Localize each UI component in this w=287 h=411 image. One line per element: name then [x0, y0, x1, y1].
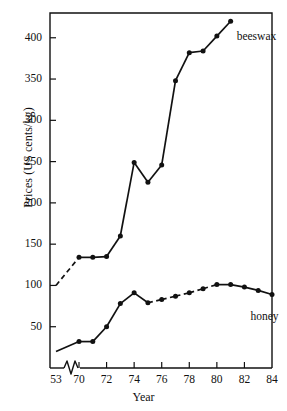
data-point-honey — [77, 339, 82, 344]
data-point-honey — [173, 294, 178, 299]
y-tick-label-100: 100 — [2, 279, 42, 291]
series-segment-honey — [134, 293, 148, 303]
y-tick-label-250: 250 — [2, 156, 42, 168]
data-point-beeswax — [173, 78, 178, 83]
series-segment-honey — [120, 293, 134, 304]
data-point-honey — [201, 286, 206, 291]
data-point-honey — [90, 339, 95, 344]
data-point-honey — [214, 282, 219, 287]
data-point-beeswax — [228, 19, 233, 24]
series-segment-beeswax — [176, 53, 190, 81]
data-point-honey — [228, 282, 233, 287]
data-point-beeswax — [159, 162, 164, 167]
data-point-honey — [270, 292, 275, 297]
series-segment-beeswax — [107, 236, 121, 257]
x-tick-label-76: 76 — [149, 374, 175, 386]
data-point-beeswax — [187, 50, 192, 55]
x-tick-label-70: 70 — [66, 374, 92, 386]
data-point-honey — [256, 288, 261, 293]
y-tick-label-200: 200 — [2, 197, 42, 209]
series-segment-beeswax — [148, 165, 162, 182]
y-tick-label-300: 300 — [2, 114, 42, 126]
data-point-honey — [118, 301, 123, 306]
x-tick-label-84: 84 — [259, 374, 285, 386]
data-point-beeswax — [132, 160, 137, 165]
series-segment-honey — [56, 342, 79, 352]
data-point-honey — [132, 290, 137, 295]
x-tick-label-72: 72 — [94, 374, 120, 386]
x-tick-label-82: 82 — [231, 374, 257, 386]
plot-area — [0, 0, 287, 411]
data-point-beeswax — [201, 48, 206, 53]
data-point-beeswax — [145, 180, 150, 185]
y-tick-label-150: 150 — [2, 238, 42, 250]
series-segment-honey — [107, 304, 121, 327]
data-point-honey — [145, 300, 150, 305]
series-label-honey: honey — [250, 310, 278, 322]
series-segment-honey — [93, 327, 107, 342]
series-segment-beeswax — [217, 21, 231, 36]
data-point-beeswax — [118, 233, 123, 238]
series-segment-beeswax — [56, 257, 79, 285]
y-tick-label-350: 350 — [2, 73, 42, 85]
data-point-honey — [187, 290, 192, 295]
series-segment-beeswax — [203, 36, 217, 51]
data-point-beeswax — [90, 255, 95, 260]
y-tick-label-400: 400 — [2, 32, 42, 44]
data-point-honey — [159, 297, 164, 302]
data-point-honey — [104, 324, 109, 329]
x-tick-label-78: 78 — [176, 374, 202, 386]
y-tick-label-50: 50 — [2, 321, 42, 333]
x-tick-label-80: 80 — [204, 374, 230, 386]
price-line-chart: Prices (US cents/kg) Year 50100150200250… — [0, 0, 287, 411]
x-tick-label-74: 74 — [121, 374, 147, 386]
data-point-beeswax — [104, 254, 109, 259]
series-label-beeswax: beeswax — [237, 30, 277, 42]
series-segment-beeswax — [162, 81, 176, 165]
series-segment-beeswax — [134, 162, 148, 182]
data-point-beeswax — [77, 255, 82, 260]
data-point-beeswax — [214, 34, 219, 39]
series-segment-beeswax — [120, 162, 134, 235]
data-point-honey — [242, 285, 247, 290]
